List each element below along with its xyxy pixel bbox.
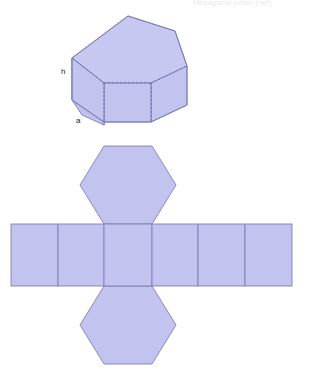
net-hexagon-top bbox=[80, 146, 176, 224]
net-rect-2 bbox=[58, 224, 104, 286]
apothem-label: a bbox=[76, 116, 81, 125]
prism-front-face bbox=[104, 83, 151, 122]
net-rect-5 bbox=[198, 224, 245, 286]
hexagonal-prism-net-group bbox=[11, 146, 292, 364]
height-label: h bbox=[61, 67, 65, 76]
geometry-figure-svg: h a bbox=[0, 0, 310, 382]
net-rect-1 bbox=[11, 224, 58, 286]
figure-root: Hexagonal prism (net) bbox=[0, 0, 310, 382]
net-rect-4 bbox=[152, 224, 198, 286]
net-rect-6 bbox=[245, 224, 292, 286]
net-rect-3 bbox=[104, 224, 152, 286]
hexagonal-prism-group: h a bbox=[61, 16, 187, 125]
net-hexagon-bottom bbox=[80, 286, 176, 364]
